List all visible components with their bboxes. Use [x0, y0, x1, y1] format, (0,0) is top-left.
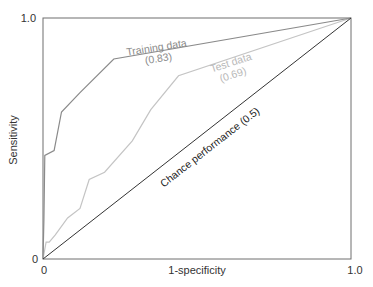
- y-axis-label: Sensitivity: [7, 115, 19, 165]
- chance-label: Chance performance (0.5): [158, 104, 262, 189]
- x-tick-min: 0: [41, 264, 47, 276]
- y-tick-min: 0: [32, 253, 38, 265]
- x-axis-label: 1-specificity: [168, 264, 226, 276]
- y-tick-max: 1.0: [21, 12, 36, 24]
- roc-chart: 1.0 0 0 1.0 1-specificity Sensitivity Tr…: [0, 0, 373, 287]
- x-tick-max: 1.0: [347, 264, 362, 276]
- chance-line: [43, 18, 351, 259]
